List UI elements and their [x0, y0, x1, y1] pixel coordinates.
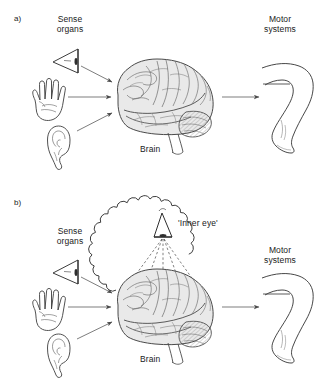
motor-systems-line-1: Motor	[252, 245, 308, 255]
arrow-ear-to-brain	[77, 322, 112, 339]
panel-a-tag: a)	[14, 14, 21, 23]
motor-systems-line-2: systems	[252, 24, 308, 34]
arrow-eye-to-brain	[81, 66, 112, 82]
sense-organs-line-2: organs	[42, 236, 98, 246]
hand-icon	[33, 289, 66, 331]
brain-illustration	[117, 269, 213, 364]
panel-a-brain-label: Brain	[140, 144, 160, 154]
leg-illustration	[262, 64, 313, 153]
leg-illustration	[262, 274, 313, 363]
eye-icon	[53, 260, 78, 284]
sense-organs-line-1: Sense	[42, 226, 98, 236]
ear-icon	[48, 334, 71, 377]
ear-icon	[48, 126, 71, 169]
eye-icon	[53, 49, 78, 73]
panel-a-motor-systems-label: Motor systems	[252, 14, 308, 34]
motor-systems-line-1: Motor	[252, 14, 308, 24]
panel-b-motor-systems-label: Motor systems	[252, 245, 308, 265]
figure-root: a) Sense organs Motor systems Brain	[0, 0, 318, 380]
panel-b-graphic	[0, 190, 318, 380]
sense-organs-line-1: Sense	[42, 14, 98, 24]
panel-a: a) Sense organs Motor systems Brain	[0, 0, 318, 190]
panel-b: b) Sense organs Motor systems 'Inner eye…	[0, 190, 318, 380]
panel-a-sense-organs-label: Sense organs	[42, 14, 98, 34]
sense-organs-line-2: organs	[42, 24, 98, 34]
panel-b-sense-organs-label: Sense organs	[42, 226, 98, 246]
hand-icon	[33, 79, 66, 121]
panel-b-tag: b)	[14, 198, 21, 207]
panel-b-inner-eye-label: 'Inner eye'	[178, 218, 218, 228]
motor-systems-line-2: systems	[252, 255, 308, 265]
panel-b-brain-label: Brain	[140, 354, 160, 364]
arrow-ear-to-brain	[77, 113, 112, 131]
brain-illustration	[117, 59, 213, 154]
